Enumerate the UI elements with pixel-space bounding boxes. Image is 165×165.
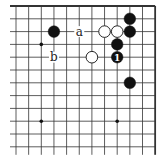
black-stone [124, 13, 136, 25]
black-stone [111, 39, 123, 51]
point-label-b: b [50, 50, 58, 64]
white-stone [111, 26, 123, 38]
black-stone [124, 26, 136, 38]
black-stone [124, 77, 136, 89]
point-label-a: a [76, 25, 83, 39]
white-stone [99, 26, 111, 38]
star-point [115, 119, 119, 123]
star-point [40, 119, 44, 123]
white-stone [86, 51, 98, 63]
go-board: ab 1 [0, 0, 165, 165]
black-stone [48, 26, 60, 38]
move-number: 1 [114, 53, 120, 63]
star-point [40, 43, 44, 47]
